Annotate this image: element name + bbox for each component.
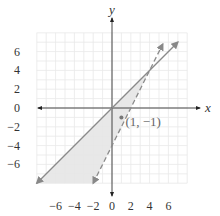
y-tick-label: −2	[7, 120, 20, 134]
test-point-label: (1, −1)	[125, 114, 160, 129]
coordinate-plane: −6−4−202466420−2−4−6 (1, −1) x y	[0, 0, 220, 216]
y-tick-label: 0	[14, 101, 20, 115]
x-tick-label: 2	[128, 199, 134, 213]
y-tick-label: 4	[14, 63, 20, 77]
y-tick-label: −4	[7, 139, 20, 153]
x-tick-label: −4	[68, 199, 81, 213]
y-tick-label: 2	[14, 82, 20, 96]
x-axis-label: x	[204, 100, 211, 115]
x-tick-label: −6	[49, 199, 62, 213]
x-tick-label: 0	[109, 199, 115, 213]
x-tick-label: 6	[165, 199, 171, 213]
y-tick-label: 6	[14, 45, 20, 59]
test-point	[119, 115, 123, 119]
x-tick-label: −2	[87, 199, 100, 213]
solid-boundary-line	[37, 42, 178, 183]
y-axis-label: y	[107, 2, 115, 17]
x-tick-label: 4	[147, 199, 153, 213]
y-tick-label: −6	[7, 157, 20, 171]
